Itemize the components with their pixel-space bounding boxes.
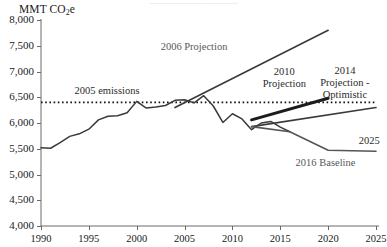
series-label-line: Projection - — [311, 77, 379, 89]
series-label-line: Optimistic — [311, 89, 379, 101]
series-label-line: 2010 — [257, 66, 311, 78]
x-axis-tick-label: 2020 — [308, 233, 348, 244]
reference-line-label: 2005 emissions — [75, 85, 140, 97]
plot-area — [0, 0, 387, 247]
y-axis-tick-label: 4,500 — [0, 194, 34, 205]
x-axis-tick-label: 1995 — [69, 233, 109, 244]
series-label-line: Projection — [257, 78, 311, 90]
series-label-line: 2014 — [311, 65, 379, 77]
series-line-2014-projection-optimistic — [252, 108, 376, 127]
x-axis-tick-label: 2005 — [165, 233, 205, 244]
series-line-historical-emissions — [41, 96, 290, 149]
y-axis-tick-label: 6,000 — [0, 117, 34, 128]
x-axis-tick-label: 2015 — [260, 233, 300, 244]
y-axis-tick-label: 5,000 — [0, 169, 34, 180]
y-axis-tick-label: 7,500 — [0, 40, 34, 51]
series-label-2014-projection-optimistic: 2014Projection -Optimistic — [311, 65, 379, 101]
y-axis-tick-label: 5,500 — [0, 143, 34, 154]
x-axis-tick-label: 2000 — [117, 233, 157, 244]
x-axis-tick-label: 1990 — [21, 233, 61, 244]
y-axis-tick-label: 6,500 — [0, 91, 34, 102]
series-label-2010-projection: 2010Projection — [257, 66, 311, 90]
series-label-2006-projection: 2006 Projection — [161, 41, 228, 53]
annotation-year-2025-callout: 2025 — [359, 135, 380, 147]
y-axis-tick-label: 7,000 — [0, 66, 34, 77]
y-axis-tick-label: 8,000 — [0, 14, 34, 25]
y-axis-tick-label: 4,000 — [0, 220, 34, 231]
emissions-projection-chart: ————————————————— MMT CO2e 8,0007,5007,0… — [0, 0, 387, 247]
series-label-2016-baseline: 2016 Baseline — [296, 157, 356, 169]
series-line-2016-baseline — [252, 127, 376, 152]
x-axis-tick-label: 2025 — [356, 233, 387, 244]
x-axis-tick-label: 2010 — [212, 233, 252, 244]
